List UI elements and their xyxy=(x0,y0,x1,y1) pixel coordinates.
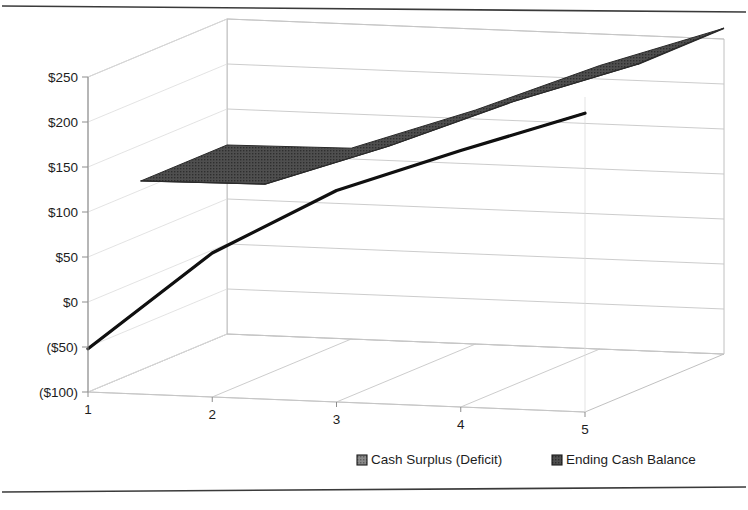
x-axis-tick-label: 5 xyxy=(581,422,589,437)
y-axis-tick-label: $0 xyxy=(63,295,78,310)
x-axis-tick-label: 4 xyxy=(457,417,465,432)
y-axis-tick-label: $150 xyxy=(48,160,78,175)
legend-label: Cash Surplus (Deficit) xyxy=(371,452,502,467)
x-axis-tick-label: 1 xyxy=(84,402,92,417)
x-axis-tick-label: 3 xyxy=(333,412,341,427)
legend-item[interactable]: Cash Surplus (Deficit) xyxy=(357,452,502,467)
y-axis-tick-label: $250 xyxy=(48,70,78,85)
cash-flow-3d-area-chart: $250$200$150$100$50$0($50)($100) 12345 C… xyxy=(0,0,748,510)
y-axis-tick-label: $100 xyxy=(48,205,78,220)
legend-swatch xyxy=(357,455,367,465)
y-axis-tick-label: ($50) xyxy=(46,340,78,355)
back-wall xyxy=(227,19,724,354)
y-axis-tick-label: $200 xyxy=(48,115,78,130)
legend-label: Ending Cash Balance xyxy=(566,452,696,467)
chart-frame: $250$200$150$100$50$0($50)($100) 12345 C… xyxy=(0,0,748,510)
legend-swatch xyxy=(552,455,562,465)
y-axis-tick-label: $50 xyxy=(55,250,78,265)
legend-item[interactable]: Ending Cash Balance xyxy=(552,452,696,467)
left-wall xyxy=(88,19,227,392)
chart-legend: Cash Surplus (Deficit)Ending Cash Balanc… xyxy=(357,452,696,467)
y-axis-tick-label: ($100) xyxy=(39,385,78,400)
x-axis-tick-label: 2 xyxy=(208,407,216,422)
y-axis-labels: $250$200$150$100$50$0($50)($100) xyxy=(39,70,78,400)
